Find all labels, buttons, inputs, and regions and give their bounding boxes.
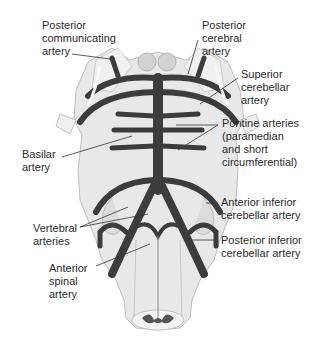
label-anterior-inferior-cerebellar-artery: Anterior inferior cerebellar artery [221,196,300,222]
label-line: communicating [42,32,116,45]
label-posterior-cerebral-artery: Posterior cerebral artery [202,19,246,58]
label-vertebral-arteries: Vertebral arteries [33,222,77,248]
label-line: Posterior [42,19,116,32]
label-line: spinal [49,275,88,288]
label-line: cerebellar [241,81,289,94]
label-line: arteries [33,235,77,248]
label-line: cerebral [202,32,246,45]
label-line: and short [222,143,299,156]
label-line: circumferential) [222,156,299,169]
label-line: artery [202,45,246,58]
label-line: (paramedian [222,130,299,143]
label-posterior-inferior-cerebellar-artery: Posterior inferior cerebellar artery [221,234,302,260]
brainstem-artery-diagram: Posterior communicating artery Posterior… [0,0,316,337]
label-anterior-spinal-artery: Anterior spinal artery [49,262,88,301]
label-line: Vertebral [33,222,77,235]
label-posterior-communicating-artery: Posterior communicating artery [42,19,116,58]
label-basilar-artery: Basilar artery [22,148,56,174]
label-line: cerebellar artery [221,247,302,260]
label-line: artery [49,288,88,301]
label-line: artery [42,45,116,58]
label-line: artery [241,94,289,107]
label-superior-cerebellar-artery: Superior cerebellar artery [241,68,289,107]
label-line: Pontine arteries [222,117,299,130]
label-line: Posterior [202,19,246,32]
label-line: Anterior [49,262,88,275]
label-line: Superior [241,68,289,81]
label-line: Anterior inferior [221,196,300,209]
label-line: Posterior inferior [221,234,302,247]
label-line: artery [22,161,56,174]
label-pontine-arteries: Pontine arteries (paramedian and short c… [222,117,299,169]
label-line: Basilar [22,148,56,161]
label-line: cerebellar artery [221,209,300,222]
